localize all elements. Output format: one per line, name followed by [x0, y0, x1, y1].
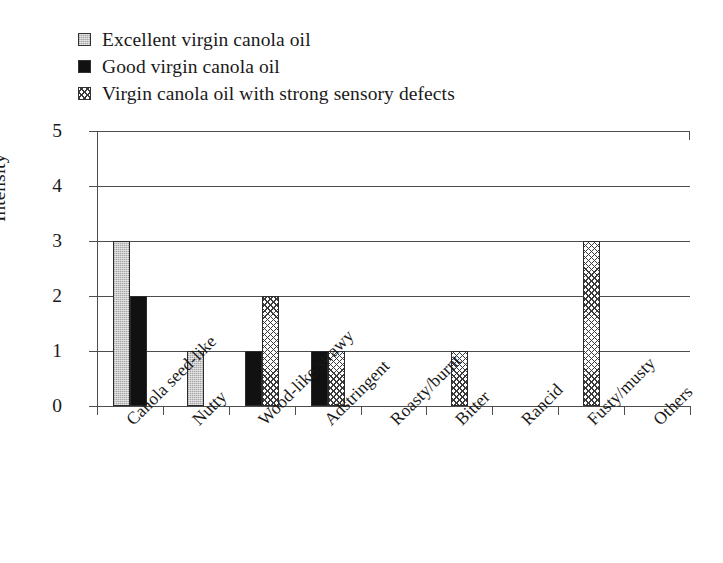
x-axis-tick-mark: [97, 406, 98, 415]
x-axis-tick-mark: [492, 406, 493, 415]
x-axis-tick-mark: [229, 406, 230, 415]
y-axis-title: Intensity: [0, 154, 10, 222]
x-axis-tick-mark: [361, 406, 362, 415]
x-axis-tick-mark: [163, 406, 164, 415]
bar: [245, 351, 262, 406]
y-axis-tick-label: 0: [36, 396, 62, 416]
bar: [262, 296, 279, 406]
y-axis-tick-label: 4: [36, 176, 62, 196]
x-axis-tick-mark: [624, 406, 625, 415]
y-axis-tick-label: 3: [36, 231, 62, 251]
x-axis-tick-mark: [295, 406, 296, 415]
y-axis-tick-mark: [89, 406, 97, 407]
gridline: [97, 296, 690, 297]
y-axis-tick-mark: [89, 241, 97, 242]
y-axis-tick-mark: [89, 351, 97, 352]
y-axis-tick-mark: [89, 131, 97, 132]
x-axis-tick-mark: [558, 406, 559, 415]
x-axis-tick-mark: [690, 406, 691, 415]
bar-chart: Intensity 012345 Canola seed-likeNuttyWo…: [0, 0, 723, 563]
y-axis-tick-mark: [89, 186, 97, 187]
x-axis-tick-mark: [426, 406, 427, 415]
bar: [130, 296, 147, 406]
gridline: [97, 131, 690, 132]
y-axis-tick-label: 5: [36, 121, 62, 141]
y-axis-tick-label: 2: [36, 286, 62, 306]
y-axis-tick-label: 1: [36, 341, 62, 361]
bar: [113, 241, 130, 406]
gridline: [97, 186, 690, 187]
y-axis-tick-mark: [89, 296, 97, 297]
gridline: [97, 241, 690, 242]
bar: [583, 241, 600, 406]
